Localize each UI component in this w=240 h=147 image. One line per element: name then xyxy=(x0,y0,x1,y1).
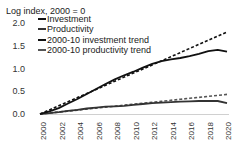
x-tick-label: 2006 xyxy=(94,122,103,140)
solid-line-swatch-icon xyxy=(38,28,46,30)
y-tick-label: 1.5 xyxy=(7,41,25,51)
x-tick-label: 2000 xyxy=(39,122,48,140)
x-tick-label: 2016 xyxy=(187,122,196,140)
y-tick-label: 0.0 xyxy=(7,109,25,119)
x-tick-label: 2010 xyxy=(131,122,140,140)
y-tick-label: 1.0 xyxy=(7,64,25,74)
legend-label: Productivity xyxy=(47,24,94,34)
dashed-line-swatch-icon xyxy=(38,39,46,41)
legend-item-productivity-trend: 2000-10 productivity trend xyxy=(38,45,151,55)
legend-label: 2000-10 productivity trend xyxy=(47,45,151,55)
dashed-line-swatch-icon xyxy=(38,49,46,51)
x-tick-label: 2008 xyxy=(113,122,122,140)
legend-item-investment: Investment xyxy=(38,14,151,24)
line-chart: Log index, 2000 = 0 2.0 1.5 1.0 0.5 0.0 … xyxy=(0,0,240,147)
legend-item-productivity: Productivity xyxy=(38,24,151,34)
y-tick-label: 2.0 xyxy=(7,18,25,28)
legend-item-investment-trend: 2000-10 investment trend xyxy=(38,35,151,45)
x-tick-label: 2014 xyxy=(168,122,177,140)
x-tick-label: 2018 xyxy=(205,122,214,140)
x-tick-label: 2020 xyxy=(224,122,233,140)
x-tick-label: 2012 xyxy=(150,122,159,140)
y-tick-label: 0.5 xyxy=(7,86,25,96)
legend-label: 2000-10 investment trend xyxy=(47,35,149,45)
x-tick-label: 2002 xyxy=(57,122,66,140)
legend-label: Investment xyxy=(47,14,91,24)
solid-line-swatch-icon xyxy=(38,18,46,20)
x-tick-label: 2004 xyxy=(76,122,85,140)
legend: Investment Productivity 2000-10 investme… xyxy=(38,14,151,55)
